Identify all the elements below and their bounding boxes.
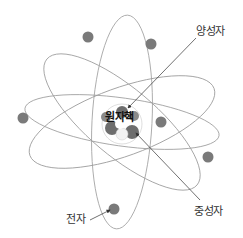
nucleus-label: 원자핵 (105, 112, 134, 123)
proton-pointer (128, 38, 196, 108)
electron (203, 152, 214, 163)
nucleus (101, 104, 142, 144)
neutron-pointer (136, 133, 200, 200)
electron-pointer (90, 210, 110, 220)
neutron-label: 중성자 (194, 206, 223, 217)
electron (146, 39, 157, 50)
atom-diagram: 원자핵 양성자 중성자 전자 (0, 0, 243, 238)
proton-label: 양성자 (196, 26, 225, 37)
neutron-particle (116, 128, 128, 140)
electron (18, 113, 29, 124)
electron-label: 전자 (66, 214, 85, 225)
electron (83, 32, 94, 43)
electron (156, 117, 167, 128)
electron (109, 204, 120, 215)
